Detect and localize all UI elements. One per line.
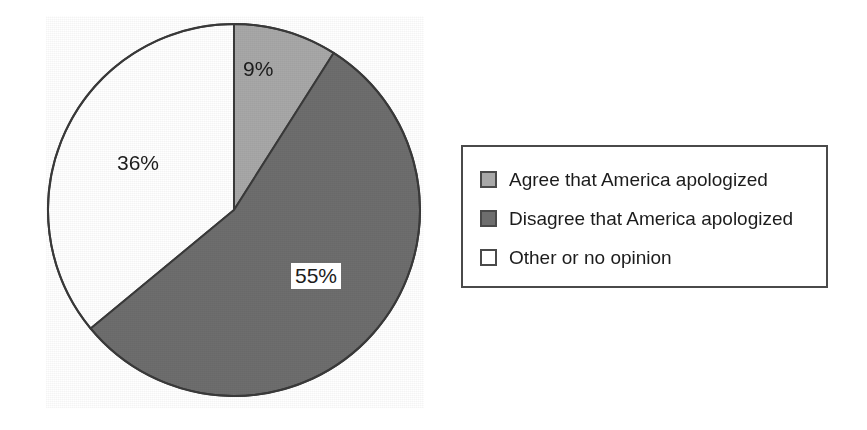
pie-chart-svg [46,16,424,408]
pie-slice-label-agree: 9% [243,58,273,79]
pie-slice-label-other: 36% [117,152,159,173]
legend-label-agree: Agree that America apologized [509,170,768,189]
legend-swatch-disagree-icon [480,210,497,227]
legend-label-other: Other or no opinion [509,248,672,267]
legend-item-agree[interactable]: Agree that America apologized [480,160,818,199]
pie-chart-plot-area [46,16,424,408]
pie-slices [48,24,420,396]
pie-slice-label-disagree: 55% [291,263,341,289]
pie-chart-figure: 9% 36% 55% Agree that America apologized… [0,0,867,430]
legend-item-disagree[interactable]: Disagree that America apologized [480,199,818,238]
legend-swatch-other-icon [480,249,497,266]
legend-item-other[interactable]: Other or no opinion [480,238,818,277]
legend-label-disagree: Disagree that America apologized [509,209,793,228]
legend-item-list: Agree that America apologized Disagree t… [480,160,818,277]
chart-legend: Agree that America apologized Disagree t… [461,145,828,288]
legend-swatch-agree-icon [480,171,497,188]
